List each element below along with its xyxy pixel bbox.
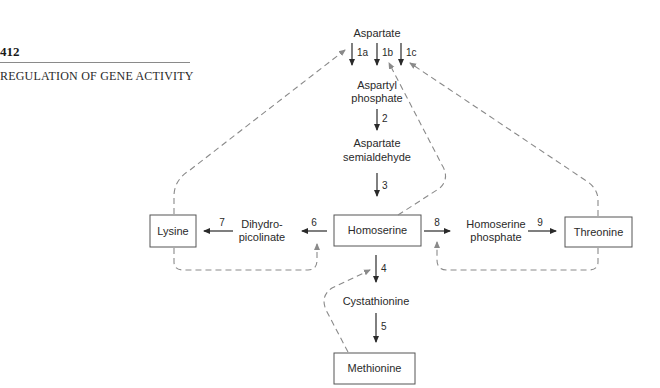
node-methionine: Methionine: [334, 353, 415, 384]
step-2-arrow: 2: [377, 109, 388, 130]
step-4-arrow: 4: [376, 255, 387, 282]
node-dihydropicolinate-line2: picolinate: [239, 231, 285, 243]
feedback-threonine-to-1c: [410, 63, 598, 216]
svg-text:Threonine: Threonine: [574, 226, 624, 238]
node-aspartyl-phosphate: Aspartyl: [357, 79, 397, 91]
svg-text:9: 9: [537, 217, 543, 228]
svg-text:3: 3: [382, 180, 388, 191]
step-5-arrow: 5: [376, 313, 387, 342]
svg-text:5: 5: [381, 321, 387, 332]
feedback-methionine-to-4: [324, 270, 370, 352]
step-8-arrow: 8: [424, 217, 450, 231]
node-homoserine: Homoserine: [334, 215, 421, 246]
svg-text:6: 6: [311, 217, 317, 228]
node-aspartyl-phosphate-line2: phosphate: [351, 92, 402, 104]
node-lysine: Lysine: [150, 215, 196, 247]
svg-text:8: 8: [434, 217, 440, 228]
node-threonine: Threonine: [565, 217, 632, 247]
feedback-lysine-to-1a: [174, 50, 345, 214]
svg-text:1a: 1a: [357, 47, 369, 58]
aspartate-pathway-diagram: Aspartate 1a 1b 1c Aspartyl phosphate 2 …: [0, 0, 660, 388]
node-homoserine-phosphate: Homoserine: [466, 218, 525, 230]
svg-text:2: 2: [382, 113, 388, 124]
svg-text:Homoserine: Homoserine: [348, 224, 407, 236]
step-1c-arrow: 1c: [401, 43, 417, 65]
step-3-arrow: 3: [377, 173, 388, 196]
step-9-arrow: 9: [528, 217, 556, 231]
node-homoserine-phosphate-line2: phosphate: [470, 231, 521, 243]
svg-text:Methionine: Methionine: [348, 362, 402, 374]
step-1a-arrow: 1a: [352, 43, 369, 65]
svg-text:1b: 1b: [382, 47, 394, 58]
node-aspartate-semialdehyde-line2: semialdehyde: [343, 151, 411, 163]
svg-text:1c: 1c: [406, 47, 417, 58]
step-6-arrow: 6: [302, 217, 327, 231]
node-aspartate: Aspartate: [353, 27, 400, 39]
svg-text:Lysine: Lysine: [157, 225, 188, 237]
step-1b-arrow: 1b: [377, 43, 394, 65]
step-7-arrow: 7: [204, 217, 233, 231]
node-aspartate-semialdehyde: Aspartate: [353, 137, 400, 149]
node-dihydropicolinate: Dihydro-: [241, 218, 283, 230]
node-cystathionine: Cystathionine: [343, 295, 410, 307]
svg-text:4: 4: [381, 263, 387, 274]
svg-text:7: 7: [219, 217, 225, 228]
feedback-lysine-to-6: [174, 244, 317, 270]
